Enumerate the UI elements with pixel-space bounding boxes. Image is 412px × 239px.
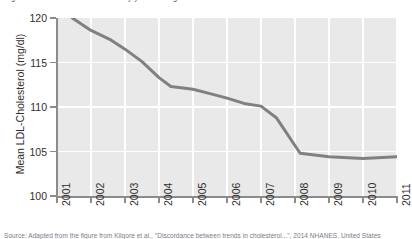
x-tick-mark-2004 xyxy=(158,197,160,203)
x-tick-label-2004: 2004 xyxy=(163,166,174,206)
source-note: Source: Adapted from the figure from Kil… xyxy=(4,231,410,239)
x-tick-label-2005: 2005 xyxy=(197,166,208,206)
x-tick-mark-2003 xyxy=(124,197,126,203)
y-tick-label-105: 105 xyxy=(7,147,47,157)
x-tick-mark-2011 xyxy=(396,197,398,203)
data-series-line xyxy=(57,18,397,196)
x-tick-mark-2002 xyxy=(90,197,92,203)
x-tick-label-2002: 2002 xyxy=(95,166,106,206)
y-tick-mark-100 xyxy=(50,195,56,197)
y-tick-mark-105 xyxy=(50,151,56,153)
x-tick-mark-2007 xyxy=(260,197,262,203)
y-tick-label-115: 115 xyxy=(7,58,47,68)
x-tick-mark-2009 xyxy=(328,197,330,203)
plot-area xyxy=(57,18,397,196)
x-tick-mark-2005 xyxy=(192,197,194,203)
y-tick-mark-110 xyxy=(50,106,56,108)
x-tick-label-2010: 2010 xyxy=(367,166,378,206)
x-tick-label-2008: 2008 xyxy=(299,166,310,206)
x-tick-label-2001: 2001 xyxy=(61,166,72,206)
x-tick-mark-2008 xyxy=(294,197,296,203)
x-tick-label-2003: 2003 xyxy=(129,166,140,206)
x-tick-label-2011: 2011 xyxy=(401,166,412,206)
x-tick-mark-2001 xyxy=(56,197,58,203)
y-tick-label-120: 120 xyxy=(7,13,47,23)
y-tick-mark-115 xyxy=(50,62,56,64)
x-tick-mark-2010 xyxy=(362,197,364,203)
y-tick-label-110: 110 xyxy=(7,102,47,112)
x-tick-label-2006: 2006 xyxy=(231,166,242,206)
y-axis-spine xyxy=(56,18,58,197)
x-tick-label-2007: 2007 xyxy=(265,166,276,206)
y-tick-mark-120 xyxy=(50,17,56,19)
x-tick-mark-2006 xyxy=(226,197,228,203)
y-tick-label-100: 100 xyxy=(7,191,47,201)
x-tick-label-2009: 2009 xyxy=(333,166,344,206)
chart-figure: Mean LDL-Cholesterol (mg/dl) 10010511011… xyxy=(0,0,412,239)
